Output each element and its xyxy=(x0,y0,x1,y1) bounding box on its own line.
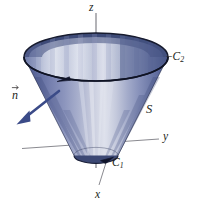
normal-vector-label-letter: n xyxy=(12,88,18,102)
surface-label: S xyxy=(146,103,152,116)
figure-canvas xyxy=(0,0,198,205)
normal-vector-label: n xyxy=(12,89,18,101)
x-axis-label: x xyxy=(95,189,100,201)
upper-curve-label-subscript: 2 xyxy=(180,55,184,64)
z-axis-label: z xyxy=(89,2,93,14)
cone-surface-figure: z y x S C1 −C2 n xyxy=(0,0,198,205)
y-axis-label: y xyxy=(163,131,168,143)
lower-curve-label-subscript: 1 xyxy=(120,161,124,170)
upper-curve-label: −C2 xyxy=(166,51,184,64)
lower-curve-label: C1 xyxy=(112,157,124,170)
lower-curve-label-letter: C xyxy=(112,156,120,168)
